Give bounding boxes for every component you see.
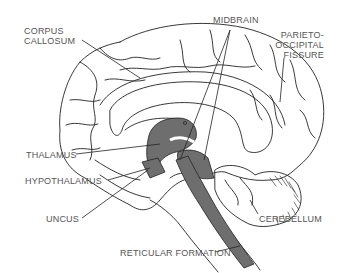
hypothalamus-shape: [142, 158, 165, 178]
label-cerebellum: CEREBELLUM: [259, 214, 322, 224]
label-line: FISSURE: [270, 50, 324, 60]
label-line: CALLOSUM: [24, 36, 75, 46]
label-uncus: UNCUS: [46, 214, 79, 224]
leader-parieto-occipital: [280, 58, 284, 102]
label-line: OCCIPITAL: [270, 40, 324, 50]
label-reticular-formation: RETICULAR FORMATION: [120, 248, 231, 258]
leader-midbrain-1: [180, 30, 230, 160]
label-corpus-callosum: CORPUS CALLOSUM: [24, 26, 75, 46]
label-line: PARIETO-: [270, 30, 324, 40]
leader-cerebellum: [250, 200, 258, 214]
label-midbrain: MIDBRAIN: [213, 15, 259, 25]
leader-corpus-callosum: [82, 40, 140, 78]
label-thalamus: THALAMUS: [26, 150, 77, 160]
label-hypothalamus: HYPOTHALAMUS: [25, 176, 102, 186]
leader-midbrain-2: [204, 30, 230, 160]
label-line: CORPUS: [24, 26, 75, 36]
label-parieto-occipital-fissure: PARIETO- OCCIPITAL FISSURE: [270, 30, 324, 60]
leader-hypothalamus: [108, 168, 150, 180]
